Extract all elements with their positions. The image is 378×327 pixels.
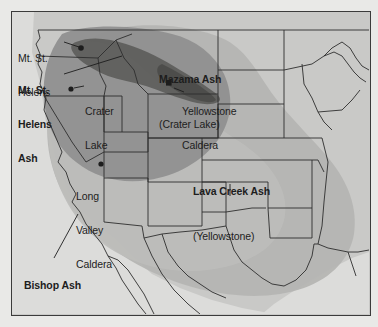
label-lava-creek-ash: Lava Creek Ash (Yellowstone)	[193, 151, 270, 277]
label-mt-st-helens-ash: Mt. St. Helens Ash	[18, 62, 52, 187]
label-line: Lava Creek Ash	[193, 186, 270, 197]
label-line: Crater	[85, 106, 114, 117]
label-line: Mt. St.	[18, 85, 52, 96]
label-line: Helens	[18, 119, 52, 130]
label-line: Long	[76, 191, 112, 202]
label-line: Caldera	[182, 140, 237, 151]
label-line: (Yellowstone)	[193, 231, 270, 242]
label-line: Yellowstone	[182, 106, 237, 117]
marker-crater-lake	[68, 86, 73, 91]
screenshot-root: Mt. St. Helens Mt. St. Helens Ash Mazama…	[0, 0, 378, 327]
label-line: Lake	[85, 140, 114, 151]
label-line: Ash	[18, 153, 52, 164]
label-crater-lake: Crater Lake	[85, 83, 114, 174]
map-title: Volcanic Ash Layer Comparison	[22, 285, 117, 316]
label-line: Valley	[76, 225, 112, 236]
map-frame: Mt. St. Helens Mt. St. Helens Ash Mazama…	[11, 11, 371, 316]
marker-mt-st-helens	[78, 45, 84, 51]
